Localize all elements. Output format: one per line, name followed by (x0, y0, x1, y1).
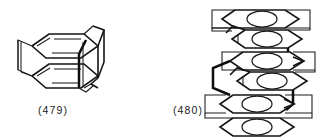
deck-5 (205, 90, 312, 113)
deck-1 (212, 10, 310, 28)
deck-6 (205, 113, 312, 136)
deck-3 (222, 48, 315, 70)
caption-480: (480) (173, 104, 203, 116)
deck-1-ring-face (222, 10, 299, 28)
deck-2 (212, 26, 310, 48)
deck-6-right-connect (280, 113, 312, 118)
caption-479: (479) (38, 104, 68, 116)
structure-480-drawing (0, 0, 329, 139)
deck-6-left-connect (205, 113, 233, 118)
figure-root: (479) (480) (0, 0, 329, 139)
